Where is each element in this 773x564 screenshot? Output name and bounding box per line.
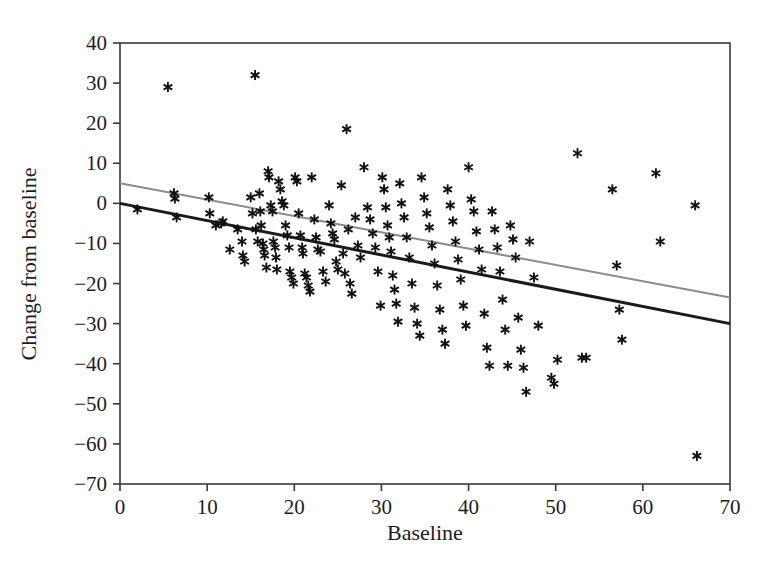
y-tick-label: 0 — [97, 191, 108, 215]
y-tick-label: 20 — [86, 111, 107, 135]
y-tick-label: −20 — [74, 272, 107, 296]
y-tick-label: −30 — [74, 312, 107, 336]
y-tick-label: 40 — [86, 31, 107, 55]
y-tick-label: 30 — [86, 71, 107, 95]
y-tick-label: −40 — [74, 352, 107, 376]
plot-background — [0, 0, 773, 564]
x-axis-title: Baseline — [387, 520, 463, 545]
y-tick-label: 10 — [86, 151, 107, 175]
y-tick-label: −10 — [74, 231, 107, 255]
y-tick-label: −70 — [74, 472, 107, 496]
plot-canvas: 403020100−10−20−30−40−50−60−70 010203040… — [0, 0, 773, 564]
x-tick-label: 40 — [458, 495, 479, 519]
x-tick-label: 30 — [371, 495, 392, 519]
x-tick-label: 70 — [720, 495, 741, 519]
x-tick-label: 10 — [197, 495, 218, 519]
y-axis-title: Change from baseline — [16, 167, 41, 360]
scatter-plot-figure: 403020100−10−20−30−40−50−60−70 010203040… — [0, 0, 773, 564]
x-tick-label: 50 — [545, 495, 566, 519]
y-tick-label: −50 — [74, 392, 107, 416]
x-tick-label: 60 — [632, 495, 653, 519]
x-tick-label: 20 — [284, 495, 305, 519]
x-tick-label: 0 — [115, 495, 126, 519]
y-tick-label: −60 — [74, 432, 107, 456]
